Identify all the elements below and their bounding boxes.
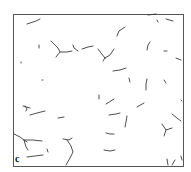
segment bbox=[30, 111, 45, 115]
segment bbox=[27, 19, 40, 24]
segment-plot bbox=[0, 0, 191, 172]
segment bbox=[104, 150, 115, 151]
line-segments bbox=[14, 14, 182, 165]
panel-label: c bbox=[15, 154, 19, 164]
segment bbox=[172, 114, 181, 121]
segment bbox=[164, 80, 166, 83]
segment bbox=[125, 116, 127, 127]
panel-frame bbox=[14, 15, 184, 167]
segment bbox=[117, 27, 125, 36]
segment bbox=[176, 58, 181, 60]
segment bbox=[113, 68, 126, 71]
figure-panel: c bbox=[0, 0, 191, 172]
segment bbox=[103, 58, 105, 61]
segment bbox=[105, 49, 114, 58]
segment bbox=[27, 155, 43, 157]
segment bbox=[129, 78, 130, 82]
segment bbox=[146, 79, 147, 90]
segment bbox=[167, 159, 168, 165]
segment bbox=[14, 134, 27, 142]
segment bbox=[51, 41, 72, 52]
segment bbox=[109, 113, 120, 115]
segment bbox=[63, 138, 72, 140]
segment bbox=[181, 100, 182, 101]
segment bbox=[56, 52, 60, 57]
segment bbox=[47, 149, 48, 152]
segment bbox=[82, 46, 93, 49]
segment bbox=[73, 45, 78, 51]
segment bbox=[147, 42, 150, 50]
segment bbox=[106, 133, 114, 134]
segment bbox=[162, 124, 172, 130]
segment bbox=[157, 20, 158, 22]
segment bbox=[66, 140, 73, 165]
segment bbox=[172, 160, 175, 165]
segment bbox=[181, 156, 182, 160]
segment bbox=[137, 103, 144, 107]
segment bbox=[98, 49, 105, 58]
segment bbox=[164, 130, 166, 136]
segment bbox=[58, 117, 64, 118]
segment bbox=[106, 99, 114, 104]
segment bbox=[24, 140, 42, 141]
segment bbox=[166, 19, 173, 21]
